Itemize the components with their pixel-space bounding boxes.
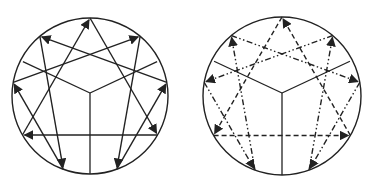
hexad-arrow-1-to-7 — [206, 35, 333, 81]
triangle-arrow-3-to-9 — [283, 19, 350, 136]
hexad-arrow-4-to-1 — [309, 37, 332, 170]
enneagram-figure — [0, 0, 371, 181]
hexad-arrow-8-to-2 — [231, 35, 358, 81]
triangle-arrow-6-to-9 — [22, 20, 89, 135]
enneagram-diagrams — [0, 0, 371, 181]
hexad-arrow-5-to-8 — [232, 37, 255, 170]
inner-line-left — [214, 61, 282, 93]
triangle-arrow-9-to-6 — [215, 17, 282, 134]
disintegration-enneagram — [12, 18, 168, 174]
integration-enneagram — [203, 17, 361, 175]
